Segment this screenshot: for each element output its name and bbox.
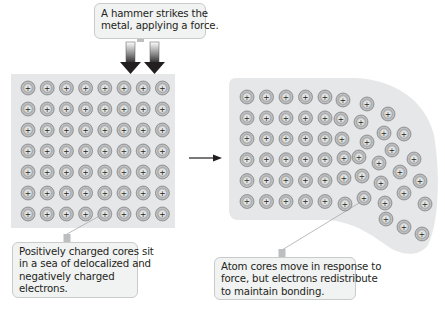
svg-text:+: +: [140, 105, 146, 114]
atom-core-icon: +: [79, 102, 93, 116]
atom-core-icon: +: [98, 207, 112, 221]
callout-before-line-1: Positively charged cores sit: [19, 246, 131, 258]
svg-text:+: +: [140, 126, 146, 135]
atom-core-icon: +: [40, 102, 54, 116]
svg-text:+: +: [244, 176, 250, 185]
atom-core-icon: +: [240, 195, 254, 209]
atom-core-icon: +: [59, 102, 73, 116]
atom-core-icon: +: [21, 81, 35, 95]
atom-core-icon: +: [155, 186, 169, 200]
svg-text:+: +: [121, 126, 127, 135]
svg-text:+: +: [159, 105, 165, 114]
atom-core-icon: +: [260, 90, 274, 104]
atom-core-icon: +: [318, 153, 332, 167]
svg-text:+: +: [44, 189, 50, 198]
atom-core-icon: +: [136, 207, 150, 221]
svg-text:+: +: [140, 189, 146, 198]
svg-text:+: +: [322, 155, 328, 164]
svg-text:+: +: [244, 93, 250, 102]
svg-text:+: +: [401, 189, 407, 198]
callout-after: Atom cores move in response to force, bu…: [214, 257, 356, 300]
svg-text:+: +: [140, 84, 146, 93]
svg-text:+: +: [302, 134, 308, 143]
atom-core-icon: +: [279, 153, 293, 167]
svg-text:+: +: [102, 105, 108, 114]
svg-text:+: +: [283, 155, 289, 164]
svg-text:+: +: [385, 110, 391, 119]
atom-core-icon: +: [79, 165, 93, 179]
atom-core-icon: +: [299, 153, 313, 167]
atom-core-icon: +: [59, 81, 73, 95]
svg-text:+: +: [302, 93, 308, 102]
svg-text:+: +: [140, 168, 146, 177]
atom-core-icon: +: [40, 123, 54, 137]
svg-text:+: +: [25, 189, 31, 198]
svg-text:+: +: [397, 168, 403, 177]
atom-core-icon: +: [355, 169, 369, 183]
svg-text:+: +: [63, 84, 69, 93]
atom-core-icon: +: [335, 132, 349, 146]
atom-core-icon: +: [117, 165, 131, 179]
svg-text:+: +: [82, 84, 88, 93]
svg-text:+: +: [63, 105, 69, 114]
atom-core-icon: +: [98, 165, 112, 179]
atom-core-icon: +: [240, 153, 254, 167]
svg-text:+: +: [359, 172, 365, 181]
atom-core-icon: +: [240, 132, 254, 146]
callout-before-line-2: in a sea of delocalized and: [19, 258, 131, 270]
svg-text:+: +: [102, 210, 108, 219]
atom-core-icon: +: [397, 186, 411, 200]
svg-text:+: +: [322, 197, 328, 206]
atom-core-icon: +: [337, 171, 351, 185]
atom-core-icon: +: [407, 152, 421, 166]
atom-core-icon: +: [360, 97, 374, 111]
atom-core-icon: +: [260, 153, 274, 167]
svg-text:+: +: [44, 105, 50, 114]
atom-core-icon: +: [260, 195, 274, 209]
atom-core-icon: +: [98, 123, 112, 137]
svg-text:+: +: [63, 210, 69, 219]
callout-before-line-4: electrons.: [19, 283, 131, 295]
svg-text:+: +: [361, 194, 367, 203]
transition-arrow-icon: [189, 155, 222, 162]
svg-text:+: +: [401, 130, 407, 139]
svg-text:+: +: [63, 189, 69, 198]
svg-text:+: +: [121, 168, 127, 177]
atom-core-icon: +: [98, 186, 112, 200]
svg-text:+: +: [422, 200, 428, 209]
svg-text:+: +: [102, 126, 108, 135]
atom-core-icon: +: [98, 81, 112, 95]
svg-text:+: +: [263, 176, 269, 185]
atom-core-icon: +: [136, 123, 150, 137]
svg-text:+: +: [44, 84, 50, 93]
atom-core-icon: +: [136, 102, 150, 116]
atom-core-icon: +: [21, 165, 35, 179]
atom-core-icon: +: [299, 174, 313, 188]
atom-core-icon: +: [21, 186, 35, 200]
svg-text:+: +: [82, 126, 88, 135]
svg-text:+: +: [82, 147, 88, 156]
svg-text:+: +: [121, 147, 127, 156]
svg-text:+: +: [302, 114, 308, 123]
atom-core-icon: +: [336, 93, 350, 107]
atom-core-icon: +: [418, 197, 432, 211]
atom-core-icon: +: [279, 174, 293, 188]
svg-text:+: +: [283, 197, 289, 206]
atom-core-icon: +: [352, 150, 366, 164]
atom-core-icon: +: [117, 123, 131, 137]
atom-core-icon: +: [59, 207, 73, 221]
callout-after-line-1: Atom cores move in response to: [221, 261, 349, 273]
atom-core-icon: +: [338, 197, 352, 211]
callout-after-line-3: to maintain bonding.: [221, 286, 349, 298]
svg-text:+: +: [44, 126, 50, 135]
atom-core-icon: +: [279, 132, 293, 146]
atom-core-icon: +: [117, 144, 131, 158]
atom-core-icon: +: [381, 107, 395, 121]
svg-text:+: +: [341, 174, 347, 183]
svg-text:+: +: [140, 210, 146, 219]
atom-core-icon: +: [155, 81, 169, 95]
metallic-bonding-diagram: ++++++++++++++++++++++++++++++++++++++++…: [0, 0, 445, 313]
atom-core-icon: +: [318, 195, 332, 209]
atom-core-icon: +: [21, 144, 35, 158]
svg-text:+: +: [25, 126, 31, 135]
